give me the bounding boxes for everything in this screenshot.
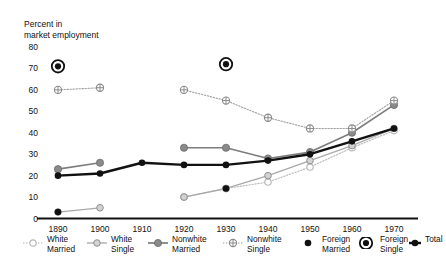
data-point-1900 <box>96 159 103 166</box>
data-point-1940 <box>265 172 272 179</box>
data-point-1900 <box>97 170 104 177</box>
data-point-1920 <box>181 194 188 201</box>
chart-container: Percent in market employment 80 70 60 50… <box>0 0 446 269</box>
series-nonwhite-single <box>54 84 397 132</box>
total-swatch <box>408 235 422 247</box>
legend-item-total[interactable]: Total <box>408 234 443 247</box>
series-line <box>58 163 100 169</box>
legend-label-foreign-single: Foreign Single <box>380 234 408 254</box>
data-point-1970 <box>391 125 398 132</box>
data-point-1900 <box>97 204 104 211</box>
swatch-marker <box>30 240 36 246</box>
series-line <box>184 105 394 159</box>
chart-legend: White Married White Single Nonwhite Marr… <box>0 234 446 269</box>
data-point-1890 <box>55 172 62 179</box>
data-point-1930 <box>222 144 229 151</box>
nonwhite-married-swatch <box>147 235 169 247</box>
data-point-1940 <box>265 157 272 164</box>
data-point-1930 <box>223 61 229 67</box>
series-foreign-married <box>55 185 230 215</box>
foreign-single-swatch <box>355 235 377 247</box>
legend-item-foreign-single[interactable]: Foreign Single <box>355 234 408 254</box>
series-total <box>55 125 398 179</box>
legend-item-white-single[interactable]: White Single <box>86 234 134 254</box>
swatch-marker <box>94 240 101 247</box>
series-white-single <box>55 125 398 215</box>
legend-label-nonwhite-single: Nonwhite Single <box>247 234 282 254</box>
data-point-1910 <box>139 159 146 166</box>
data-point-1920 <box>181 162 188 169</box>
legend-item-foreign-married[interactable]: Foreign Married <box>297 234 350 254</box>
white-single-swatch <box>86 235 108 247</box>
legend-label-white-married: White Married <box>47 234 75 254</box>
legend-item-white-married[interactable]: White Married <box>22 234 75 254</box>
data-point-1890 <box>55 63 61 69</box>
legend-label-total: Total <box>425 234 443 244</box>
legend-label-white-single: White Single <box>111 234 134 254</box>
legend-item-nonwhite-single[interactable]: Nonwhite Single <box>222 234 282 254</box>
swatch-marker <box>305 240 312 247</box>
legend-item-nonwhite-married[interactable]: Nonwhite Married <box>147 234 207 254</box>
data-point-1950 <box>307 151 314 158</box>
data-point-1950 <box>307 164 313 170</box>
white-married-swatch <box>22 235 44 247</box>
swatch-marker <box>154 239 161 246</box>
data-point-1940 <box>265 179 271 185</box>
foreign-married-swatch <box>297 235 319 247</box>
swatch-marker <box>363 240 369 246</box>
plot-area <box>0 0 446 269</box>
series-foreign-single <box>52 58 232 73</box>
legend-label-foreign-married: Foreign Married <box>322 234 350 254</box>
data-point-1950 <box>307 157 314 164</box>
data-point-1890 <box>55 209 62 216</box>
nonwhite-single-swatch <box>222 235 244 247</box>
series-line <box>184 90 394 129</box>
data-point-1930 <box>223 185 230 192</box>
series-line <box>58 208 100 212</box>
data-point-1930 <box>223 162 230 169</box>
swatch-marker <box>412 240 419 247</box>
legend-label-nonwhite-married: Nonwhite Married <box>172 234 207 254</box>
data-point-1960 <box>349 138 356 145</box>
data-point-1890 <box>54 166 61 173</box>
data-point-1920 <box>180 144 187 151</box>
series-line <box>58 88 100 90</box>
